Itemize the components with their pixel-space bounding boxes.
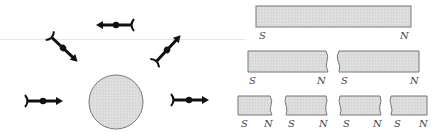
bar-magnet-quarter-4: [390, 96, 427, 115]
figure: S N S N S N S N S N S N S N: [0, 0, 442, 136]
compass-needle-top-icon: [96, 19, 134, 31]
bar-magnet-whole: [256, 6, 411, 27]
compass-needle-left-icon: [25, 95, 63, 107]
pole-label-s: S: [259, 31, 266, 41]
pole-label-s: S: [288, 119, 295, 129]
pole-label-s: S: [343, 119, 350, 129]
pole-label-n: N: [373, 119, 382, 129]
compass-needle-upper-right-icon: [150, 31, 185, 67]
pole-label-n: N: [400, 31, 409, 41]
bar-magnet-quarter-2: [285, 96, 327, 115]
pole-label-s: S: [394, 119, 401, 129]
pole-label-n: N: [410, 76, 419, 86]
compass-needle-upper-left-icon: [46, 31, 82, 66]
bar-magnet-half-1: [248, 51, 328, 72]
pole-label-n: N: [264, 119, 273, 129]
compass-needle-right-icon: [171, 94, 209, 106]
pole-label-n: N: [317, 76, 326, 86]
spherical-magnet: [89, 75, 143, 129]
figure-graphics: [0, 0, 442, 136]
bar-magnet-quarter-1: [238, 96, 272, 115]
bar-magnet-half-2: [337, 51, 419, 72]
pole-label-n: N: [419, 119, 428, 129]
pole-label-s: S: [249, 76, 256, 86]
pole-label-s: S: [341, 76, 348, 86]
pole-label-n: N: [319, 119, 328, 129]
pole-label-s: S: [241, 119, 248, 129]
bar-magnet-quarter-3: [339, 96, 381, 115]
